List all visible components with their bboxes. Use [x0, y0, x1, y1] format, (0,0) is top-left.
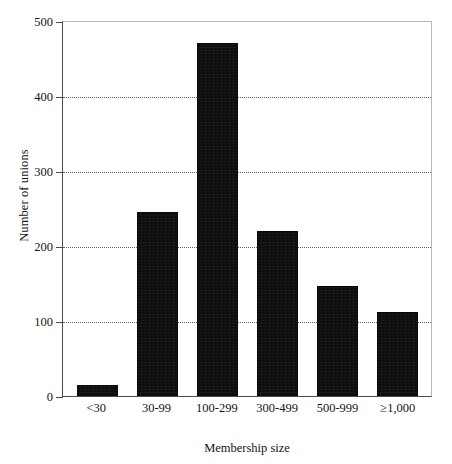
x-axis-title: Membership size: [62, 441, 432, 456]
bar-group: [63, 22, 431, 396]
x-tick-label-300-499: 300-499: [247, 401, 307, 423]
y-tick-100: [56, 322, 63, 323]
y-tick-200: [56, 247, 63, 248]
y-tick-400: [56, 97, 63, 98]
x-tick-label-30-99: 30-99: [126, 401, 186, 423]
bar-ge1000[interactable]: [377, 312, 418, 396]
y-tick-label-200: 200: [11, 241, 53, 254]
bar-slot: [77, 22, 118, 396]
y-axis-title: Number of unions: [17, 106, 32, 286]
bar-slot: [197, 22, 238, 396]
y-tick-500: [56, 22, 63, 23]
y-tick-label-500: 500: [11, 16, 53, 29]
bar-slot: [257, 22, 298, 396]
bar-slot: [317, 22, 358, 396]
y-tick-label-100: 100: [11, 316, 53, 329]
y-tick-0: [56, 397, 63, 398]
x-tick-label-lt30: <30: [66, 401, 126, 423]
bar-30-99[interactable]: [137, 212, 178, 396]
bar-500-999[interactable]: [317, 286, 358, 396]
bar-slot: [137, 22, 178, 396]
x-tick-label-500-999: 500-999: [307, 401, 367, 423]
bar-chart-figure: Number of unions 500 400 300 200 100 0: [0, 0, 452, 464]
x-axis-ticks: <30 30-99 100-299 300-499 500-999 ≥1,000: [62, 401, 432, 423]
bar-100-299[interactable]: [197, 43, 238, 396]
y-tick-300: [56, 172, 63, 173]
bar-300-499[interactable]: [257, 231, 298, 396]
x-tick-label-100-299: 100-299: [187, 401, 247, 423]
y-tick-label-400: 400: [11, 91, 53, 104]
y-tick-label-0: 0: [11, 391, 53, 404]
bar-slot: [377, 22, 418, 396]
bar-lt30[interactable]: [77, 385, 118, 396]
x-tick-label-ge1000: ≥1,000: [368, 401, 428, 423]
y-tick-label-300: 300: [11, 166, 53, 179]
plot-area: 500 400 300 200 100 0: [62, 21, 432, 397]
